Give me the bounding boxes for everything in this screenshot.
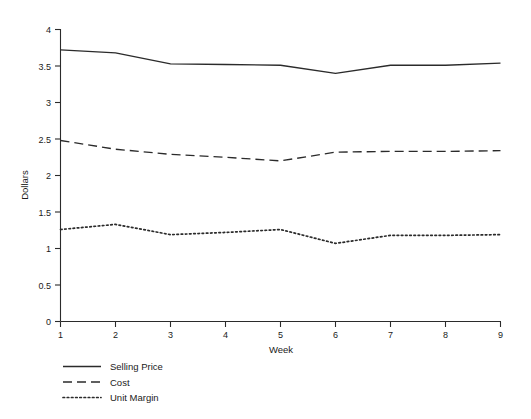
y-tick-label: 1 <box>46 244 51 254</box>
y-axis-title: Dollars <box>19 170 30 200</box>
chart-legend: Selling Price Cost Unit Margin <box>63 361 163 403</box>
y-tick-label: 0 <box>46 317 51 327</box>
x-axis-title: Week <box>269 344 293 355</box>
y-tick-label: 1.5 <box>38 208 51 218</box>
series-line-cost <box>61 140 501 160</box>
x-tick-label: 2 <box>113 330 118 340</box>
y-tick-label: 0.5 <box>38 281 51 291</box>
legend-label-selling-price: Selling Price <box>110 361 163 372</box>
legend-label-unit-margin: Unit Margin <box>110 392 159 403</box>
x-tick-label: 8 <box>443 330 448 340</box>
legend-label-cost: Cost <box>110 377 130 388</box>
x-tick-label: 9 <box>498 330 503 340</box>
y-tick-label: 3 <box>46 98 51 108</box>
y-axis-ticks: 0 0.5 1 1.5 2 2.5 3 3.5 4 <box>38 25 60 327</box>
x-tick-label: 5 <box>278 330 283 340</box>
x-tick-label: 3 <box>168 330 173 340</box>
x-tick-label: 6 <box>333 330 338 340</box>
series-line-unit-margin <box>61 224 501 243</box>
line-chart-figure: Dollars 0 0.5 1 1.5 2 2.5 3 3.5 4 <box>0 0 531 419</box>
series-line-selling-price <box>61 50 501 73</box>
x-axis-ticks: 1 2 3 4 5 6 7 8 9 <box>58 322 503 341</box>
x-tick-label: 4 <box>223 330 228 340</box>
chart-svg: Dollars 0 0.5 1 1.5 2 2.5 3 3.5 4 <box>0 0 531 419</box>
x-tick-label: 1 <box>58 330 63 340</box>
y-tick-label: 3.5 <box>38 62 51 72</box>
x-tick-label: 7 <box>388 330 393 340</box>
y-tick-label: 2 <box>46 171 51 181</box>
y-tick-label: 2.5 <box>38 135 51 145</box>
y-tick-label: 4 <box>46 25 51 35</box>
